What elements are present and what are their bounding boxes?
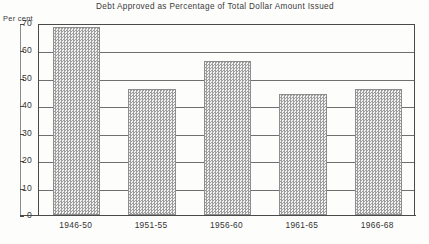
y-axis-tick-label: 20 [0,155,32,165]
y-axis-tick-mark [20,189,24,190]
y-axis-tick-mark [20,24,24,25]
x-axis-tick-label: 1956-60 [189,220,264,230]
chart-title: Debt Approved as Percentage of Total Dol… [60,2,370,11]
y-axis-tick-mark [20,134,24,135]
y-axis-tick-label: 10 [0,183,32,193]
y-axis-tick-mark [20,106,24,107]
x-axis-tick-label: 1961-65 [264,220,339,230]
y-axis-tick-mark [20,79,24,80]
y-axis-tick-mark [20,216,24,217]
bar [53,27,101,215]
y-axis-tick-mark [20,51,24,52]
bar [279,94,327,215]
bar [355,89,403,215]
y-axis-tick-label: 0 [0,210,32,220]
x-axis-tick-label: 1951-55 [113,220,188,230]
y-axis-tick-mark [20,161,24,162]
x-axis-tick-label: 1966-68 [340,220,415,230]
y-axis-tick-label: 50 [0,73,32,83]
bar [204,61,252,215]
x-axis-line [20,215,416,216]
chart-container: Debt Approved as Percentage of Total Dol… [0,0,429,244]
plot-area [38,24,415,216]
bar [128,89,176,215]
y-axis-tick-label: 30 [0,128,32,138]
y-axis-tick-label: 40 [0,100,32,110]
x-axis-tick-label: 1946-50 [38,220,113,230]
y-axis-tick-label: 70 [0,18,32,28]
y-axis-tick-label: 60 [0,45,32,55]
